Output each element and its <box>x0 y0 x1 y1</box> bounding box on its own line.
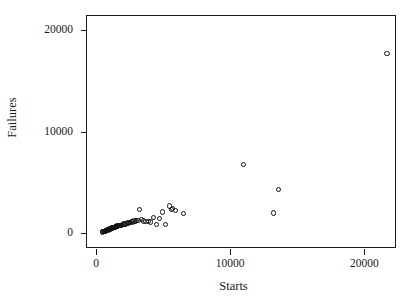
y-axis-title: Failures <box>5 68 20 168</box>
plot-frame: 01000020000 01000020000 <box>86 15 396 248</box>
x-axis-ticks: 01000020000 <box>87 16 395 247</box>
y-tick-label: 10000 <box>44 126 73 138</box>
x-tick-label: 10000 <box>216 258 245 270</box>
x-tick-label: 20000 <box>350 258 379 270</box>
y-tick-label: 20000 <box>44 24 73 36</box>
scatter-plot-figure: 01000020000 01000020000 Failures Starts <box>0 0 407 307</box>
x-axis-title-text: Starts <box>219 279 247 293</box>
x-tick-mark <box>230 249 231 255</box>
x-axis-title: Starts <box>0 279 407 294</box>
x-tick-mark <box>364 249 365 255</box>
x-tick-mark <box>96 249 97 255</box>
y-tick-label: 0 <box>67 227 73 239</box>
x-tick-label: 0 <box>93 258 99 270</box>
